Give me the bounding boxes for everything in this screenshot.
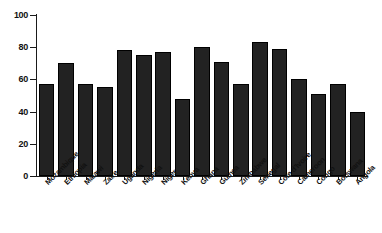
y-axis-tick-label: 20 bbox=[0, 140, 28, 149]
x-axis-tick bbox=[163, 177, 164, 180]
x-axis-tick bbox=[338, 177, 339, 180]
y-axis-tick-label: 0 bbox=[0, 172, 28, 181]
y-axis-tick bbox=[30, 79, 37, 80]
x-axis-tick bbox=[105, 177, 106, 180]
bar[interactable] bbox=[350, 112, 366, 176]
bar[interactable] bbox=[233, 84, 249, 176]
bar[interactable] bbox=[39, 84, 55, 176]
bar[interactable] bbox=[272, 49, 288, 176]
bar[interactable] bbox=[330, 84, 346, 176]
bar[interactable] bbox=[78, 84, 94, 176]
x-axis-tick bbox=[144, 177, 145, 180]
bar[interactable] bbox=[194, 47, 210, 176]
bar[interactable] bbox=[97, 87, 113, 176]
y-axis-tick bbox=[30, 47, 37, 48]
x-axis-tick bbox=[47, 177, 48, 180]
bar[interactable] bbox=[252, 42, 268, 176]
y-axis-tick bbox=[30, 15, 37, 16]
x-axis-tick bbox=[241, 177, 242, 180]
bar[interactable] bbox=[311, 94, 327, 176]
bar[interactable] bbox=[136, 55, 152, 176]
bar[interactable] bbox=[175, 99, 191, 176]
bar[interactable] bbox=[291, 79, 307, 176]
x-axis-tick bbox=[357, 177, 358, 180]
plot-area bbox=[37, 15, 367, 176]
x-axis-tick bbox=[318, 177, 319, 180]
x-axis-tick bbox=[183, 177, 184, 180]
bar[interactable] bbox=[58, 63, 74, 176]
bar[interactable] bbox=[117, 50, 133, 176]
x-axis-tick bbox=[86, 177, 87, 180]
y-axis-tick-label: 80 bbox=[0, 43, 28, 52]
bar-chart: 020406080100 MozambiqueEthiopiaMalawiZai… bbox=[0, 0, 382, 233]
x-axis-tick bbox=[202, 177, 203, 180]
x-axis-tick bbox=[260, 177, 261, 180]
y-axis-tick bbox=[30, 144, 37, 145]
y-axis-tick bbox=[30, 176, 37, 177]
y-axis-tick bbox=[30, 112, 37, 113]
x-axis-tick bbox=[280, 177, 281, 180]
bar[interactable] bbox=[155, 52, 171, 176]
x-axis-tick bbox=[66, 177, 67, 180]
x-axis-tick bbox=[124, 177, 125, 180]
bar[interactable] bbox=[214, 62, 230, 176]
x-axis-tick bbox=[299, 177, 300, 180]
y-axis-tick-label: 60 bbox=[0, 75, 28, 84]
x-axis-tick bbox=[221, 177, 222, 180]
y-axis-tick-label: 40 bbox=[0, 108, 28, 117]
y-axis-tick-label: 100 bbox=[0, 11, 28, 20]
